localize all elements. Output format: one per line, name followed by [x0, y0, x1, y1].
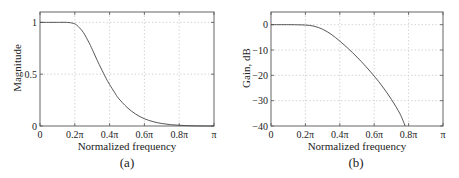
- panel-b: 00.2π0.4π0.6π0.8ππ0−10−20−30−40 Gain, dB…: [229, 0, 459, 178]
- x-tick-label: 0.8π: [170, 129, 188, 140]
- panel-caption: (a): [97, 155, 157, 171]
- y-tick-label: 0.5: [25, 69, 38, 80]
- x-tick-label: 0: [38, 129, 43, 140]
- x-axis-label: Normalized frequency: [277, 140, 437, 152]
- x-tick-label: 0.2π: [66, 129, 84, 140]
- panel-a: 00.2π0.4π0.6π0.8ππ00.51 Magnitude Normal…: [0, 0, 230, 178]
- y-tick-label: 1: [32, 17, 37, 28]
- x-tick-label: 0.4π: [101, 129, 119, 140]
- x-tick-label: 0.8π: [400, 129, 418, 140]
- plot-frame: [271, 12, 443, 126]
- plot-frame: [40, 12, 214, 126]
- y-tick-label: 0: [32, 121, 37, 132]
- y-axis-label: Magnitude: [11, 28, 23, 108]
- x-tick-label: 0.6π: [365, 129, 383, 140]
- y-tick-label: −20: [252, 70, 268, 81]
- y-axis-label: Gain, dB: [240, 28, 252, 108]
- x-tick-label: 0.2π: [297, 129, 315, 140]
- y-tick-label: 0: [263, 19, 268, 30]
- x-axis-label: Normalized frequency: [47, 140, 207, 152]
- x-tick-label: π: [211, 129, 216, 140]
- panel-caption: (b): [326, 155, 386, 171]
- y-tick-label: −40: [252, 121, 268, 132]
- y-tick-label: −10: [252, 45, 268, 56]
- x-tick-label: 0: [269, 129, 274, 140]
- y-tick-label: −30: [252, 95, 268, 106]
- x-tick-label: 0.6π: [136, 129, 154, 140]
- x-tick-label: π: [440, 129, 445, 140]
- x-tick-label: 0.4π: [331, 129, 349, 140]
